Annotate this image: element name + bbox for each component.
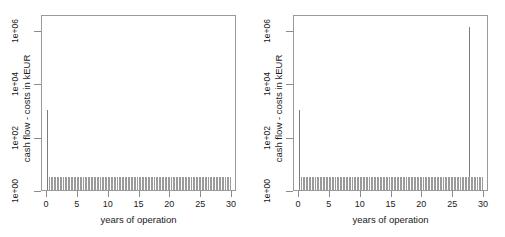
x-tick-mark <box>139 191 140 197</box>
x-tick-mark <box>169 191 170 197</box>
panel-left: cash flow - costs in kEUR years of opera… <box>0 0 252 237</box>
y-tick-label: 1e+02 <box>10 122 20 154</box>
x-tick-mark <box>483 191 484 197</box>
x-tick-label: 10 <box>350 199 370 209</box>
x-axis-label-right: years of operation <box>293 214 488 225</box>
y-tick-label: 1e+00 <box>10 175 20 207</box>
x-tick-mark <box>46 191 47 197</box>
x-tick-label: 30 <box>221 199 241 209</box>
plot-area-right <box>293 15 488 191</box>
y-tick-mark <box>34 138 41 139</box>
y-tick-mark <box>34 191 41 192</box>
x-tick-label: 5 <box>67 199 87 209</box>
x-tick-label: 25 <box>442 199 462 209</box>
x-tick-label: 30 <box>473 199 493 209</box>
x-tick-mark <box>360 191 361 197</box>
plot-area-left <box>41 15 236 191</box>
y-tick-mark <box>34 31 41 32</box>
x-tick-label: 0 <box>288 199 308 209</box>
data-bar <box>230 177 231 190</box>
y-tick-label: 1e+04 <box>262 68 272 100</box>
data-spike <box>469 27 470 190</box>
y-tick-label: 1e+00 <box>262 175 272 207</box>
x-tick-mark <box>298 191 299 197</box>
x-tick-mark <box>329 191 330 197</box>
y-tick-mark <box>286 31 293 32</box>
x-tick-label: 0 <box>36 199 56 209</box>
x-tick-mark <box>77 191 78 197</box>
figure-two-panel-cashflow: cash flow - costs in kEUR years of opera… <box>0 0 505 237</box>
y-tick-mark <box>286 138 293 139</box>
y-tick-mark <box>34 84 41 85</box>
y-tick-mark <box>286 191 293 192</box>
y-tick-label: 1e+02 <box>262 122 272 154</box>
x-tick-mark <box>200 191 201 197</box>
x-tick-mark <box>421 191 422 197</box>
x-axis-label-left: years of operation <box>41 214 236 225</box>
y-tick-label: 1e+06 <box>262 15 272 47</box>
panel-right: cash flow - costs in kEUR years of opera… <box>252 0 504 237</box>
y-tick-label: 1e+04 <box>10 68 20 100</box>
y-tick-label: 1e+06 <box>10 15 20 47</box>
x-tick-label: 5 <box>319 199 339 209</box>
x-tick-mark <box>391 191 392 197</box>
x-tick-label: 20 <box>411 199 431 209</box>
x-tick-label: 25 <box>190 199 210 209</box>
y-axis-label-left: cash flow - costs in kEUR <box>21 21 32 197</box>
data-bar <box>482 177 483 190</box>
x-tick-mark <box>231 191 232 197</box>
y-tick-mark <box>286 84 293 85</box>
x-tick-label: 10 <box>98 199 118 209</box>
x-tick-mark <box>452 191 453 197</box>
x-tick-label: 20 <box>159 199 179 209</box>
x-tick-mark <box>108 191 109 197</box>
y-axis-label-right: cash flow - costs in kEUR <box>273 21 284 197</box>
x-tick-label: 15 <box>381 199 401 209</box>
x-tick-label: 15 <box>129 199 149 209</box>
